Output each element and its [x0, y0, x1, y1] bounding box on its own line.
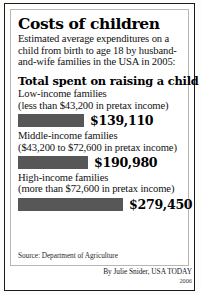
section-heading: Total spent on raising a child	[18, 75, 183, 88]
category-detail-low-income: (less than $43,200 in pretax income)	[18, 100, 183, 111]
usa-today-graphic: Costs of children Estimated average expe…	[0, 0, 201, 295]
bar-value-middle-income: $190,980	[94, 156, 157, 169]
category-label-high-income: High-income families	[18, 172, 183, 183]
bar-low-income	[18, 114, 84, 127]
credit-year: 2006	[103, 277, 192, 285]
graphic-content: Costs of children Estimated average expe…	[18, 15, 183, 214]
category-detail-high-income: (more than $72,600 in pretax income)	[18, 183, 183, 194]
bar-middle-income	[18, 156, 88, 169]
graphic-inner-box: Costs of children Estimated average expe…	[10, 9, 189, 266]
bar-value-high-income: $279,450	[129, 198, 192, 211]
credit-line: By Julie Snider, USA TODAY 2006	[103, 268, 192, 284]
category-label-middle-income: Middle-income families	[18, 130, 183, 141]
bar-row-low-income: $139,110	[18, 114, 183, 127]
credit-author: By Julie Snider, USA TODAY	[103, 267, 192, 276]
category-detail-middle-income: ($43,200 to $72,600 in pretax income)	[18, 142, 183, 153]
page-title: Costs of children	[18, 15, 183, 32]
bar-row-middle-income: $190,980	[18, 156, 183, 169]
bar-row-high-income: $279,450	[18, 198, 183, 211]
category-label-low-income: Low-income families	[18, 88, 183, 99]
source-note: Source: Department of Agriculture	[18, 251, 118, 260]
bar-high-income	[18, 198, 123, 211]
intro-paragraph: Estimated average expenditures on a chil…	[18, 33, 183, 68]
bar-value-low-income: $139,110	[90, 114, 153, 127]
